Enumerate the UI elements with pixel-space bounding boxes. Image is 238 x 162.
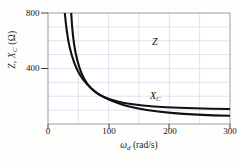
x-axis-ticks	[48, 124, 230, 129]
x-tick-label-200: 200	[157, 126, 183, 136]
series-label-xc-subscript: C	[156, 95, 161, 103]
x-tick-label-0: 0	[41, 126, 55, 136]
y-axis-title-main: Z, X	[7, 52, 17, 69]
impedance-reactance-figure: 800 400 0 100 200 300 Z, XC (Ω) ωd (rad/…	[0, 0, 238, 162]
y-axis-ticks	[41, 13, 48, 69]
y-axis-title-subscript: C	[11, 47, 19, 52]
y-tick-label-800: 800	[26, 8, 40, 18]
y-axis-title-unit: (Ω)	[7, 31, 17, 48]
x-tick-label-100: 100	[96, 126, 122, 136]
y-tick-label-400: 400	[26, 63, 40, 73]
x-axis-title: ωd (rad/s)	[48, 140, 230, 152]
x-axis-title-main: ω	[120, 140, 127, 150]
y-axis-title: Z, XC (Ω)	[7, 11, 19, 89]
caption-fragment	[62, 154, 182, 160]
x-tick-label-300: 300	[217, 126, 238, 136]
series-label-xc: XC	[150, 90, 161, 103]
x-axis-title-unit: (rad/s)	[131, 140, 158, 150]
series-label-z: Z	[152, 36, 158, 47]
plot-canvas	[0, 0, 238, 162]
